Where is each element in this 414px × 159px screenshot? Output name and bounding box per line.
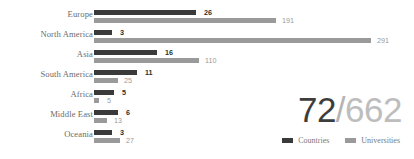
legend-label: Universities: [361, 136, 400, 145]
value-countries: 26: [204, 9, 212, 16]
bar-group: 16 110: [94, 49, 414, 69]
total-stat: 72/662: [298, 92, 402, 127]
bar-universities: [94, 58, 199, 63]
value-universities: 13: [114, 117, 122, 124]
legend-swatch-icon: [345, 138, 356, 143]
chart-legend: Countries Universities: [282, 136, 400, 145]
chart-row: South America 11 25: [0, 69, 414, 89]
value-countries: 16: [165, 49, 173, 56]
value-universities: 5: [107, 97, 111, 104]
bar-universities: [94, 18, 276, 23]
stat-separator: /: [336, 90, 345, 129]
bar-countries: [94, 130, 112, 135]
value-countries: 3: [120, 29, 124, 36]
category-label: Europe: [0, 9, 93, 20]
chart-row: Asia 16 110: [0, 49, 414, 69]
bar-universities: [94, 78, 118, 83]
value-universities: 191: [282, 17, 294, 24]
category-label: Africa: [0, 89, 93, 100]
category-label: North America: [0, 29, 93, 40]
bar-countries: [94, 30, 112, 35]
value-countries: 3: [120, 129, 124, 136]
legend-item-countries[interactable]: Countries: [282, 136, 329, 145]
legend-swatch-icon: [282, 138, 293, 143]
legend-label: Countries: [298, 136, 329, 145]
bar-countries: [94, 50, 157, 55]
category-label: Asia: [0, 49, 93, 60]
legend-item-universities[interactable]: Universities: [345, 136, 400, 145]
bar-countries: [94, 90, 114, 95]
chart-row: North America 3 291: [0, 29, 414, 49]
value-countries: 11: [145, 69, 153, 76]
bar-countries: [94, 70, 137, 75]
bar-universities: [94, 118, 107, 123]
bar-countries: [94, 110, 118, 115]
value-countries: 6: [126, 109, 130, 116]
value-countries: 5: [122, 89, 126, 96]
category-label: Middle East: [0, 109, 93, 120]
category-label: Oceania: [0, 129, 93, 140]
value-universities: 110: [205, 57, 216, 64]
bar-group: 3 291: [94, 29, 414, 49]
value-universities: 27: [126, 137, 134, 144]
stat-denominator: 662: [345, 90, 402, 129]
bar-group: 11 25: [94, 69, 414, 89]
bar-chart: Europe 26 191 North America 3 291 Asia 1…: [0, 0, 414, 159]
bar-universities: [94, 98, 99, 103]
chart-row: Europe 26 191: [0, 9, 414, 29]
value-universities: 291: [377, 37, 389, 44]
bar-universities: [94, 138, 120, 143]
bar-group: 26 191: [94, 9, 414, 29]
bar-universities: [94, 38, 371, 43]
stat-numerator: 72: [298, 90, 336, 129]
category-label: South America: [0, 69, 93, 80]
value-universities: 25: [124, 77, 132, 84]
bar-countries: [94, 10, 196, 15]
